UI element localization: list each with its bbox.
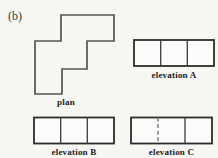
elevation-b-label: elevation B (34, 147, 114, 157)
plan-label: plan (36, 97, 96, 107)
projection-figure: (b) plan elevation A elevation B elevati… (0, 0, 218, 158)
elevation-c-label: elevation C (131, 147, 212, 157)
elevation-a-drawing (134, 40, 214, 66)
elevation-b-drawing (34, 118, 114, 144)
elevation-b-box (34, 118, 114, 144)
elevation-c-box (131, 118, 212, 144)
part-label: (b) (8, 9, 22, 24)
elevation-a-label: elevation A (134, 70, 214, 80)
plan-outline (35, 15, 114, 94)
elevation-a-box (134, 40, 214, 66)
elevation-c-drawing (131, 118, 212, 144)
